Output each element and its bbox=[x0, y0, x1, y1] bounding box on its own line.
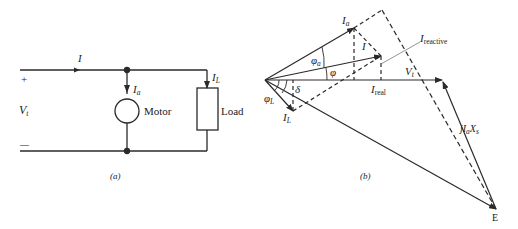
label-phasor-I: I bbox=[362, 41, 366, 52]
phasor-E bbox=[265, 80, 496, 209]
label-phasor-Ia: Ia bbox=[342, 15, 349, 28]
label-Vt: Vt bbox=[19, 104, 28, 118]
label-phi: φ bbox=[330, 67, 336, 78]
construction-lines bbox=[293, 10, 496, 209]
caption-b: (b) bbox=[360, 172, 371, 181]
phasor-I bbox=[265, 56, 381, 80]
load-symbol bbox=[197, 88, 218, 130]
label-IL: IL bbox=[212, 72, 220, 85]
phasor-diagram-b bbox=[265, 10, 496, 209]
current-arrow-I bbox=[74, 68, 80, 73]
label-I-real: Ireal bbox=[371, 84, 386, 97]
junction-bottom bbox=[125, 149, 130, 154]
motor-symbol bbox=[115, 99, 139, 123]
label-delta: δ bbox=[295, 84, 300, 95]
minus-sign: — bbox=[20, 140, 29, 149]
junction-top bbox=[125, 68, 130, 73]
plus-sign: + bbox=[21, 74, 27, 85]
label-phasor-IL: IL bbox=[283, 112, 291, 125]
label-jIaXs: jIaXs bbox=[460, 124, 479, 136]
label-phasor-Vt: Vt bbox=[405, 66, 414, 79]
arc-phi bbox=[326, 68, 327, 80]
load-label: Load bbox=[221, 106, 244, 117]
label-phi-a: φa bbox=[311, 55, 321, 68]
label-I: I bbox=[78, 53, 82, 64]
leader-I-reactive bbox=[381, 42, 420, 64]
caption-a: (a) bbox=[110, 172, 121, 181]
label-I-reactive: Ireactive bbox=[420, 33, 447, 46]
label-Ia: Ia bbox=[133, 84, 140, 97]
arc-phi-a bbox=[322, 47, 324, 68]
label-E: E bbox=[492, 213, 498, 223]
circuit-a bbox=[20, 68, 218, 154]
label-phi-L: φL bbox=[264, 93, 274, 106]
motor-label: Motor bbox=[144, 106, 172, 117]
phasor-Ia bbox=[265, 28, 354, 80]
phasor-jIaXs bbox=[443, 82, 496, 209]
